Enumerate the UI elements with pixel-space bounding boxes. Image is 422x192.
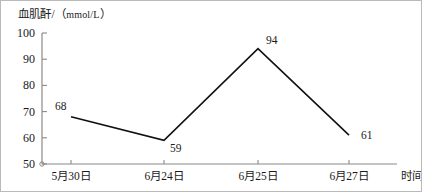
data-point-label: 94 [266, 34, 278, 46]
x-axis-title: 时间 [401, 170, 422, 183]
chart-figure: 血肌酐/（mmol/L） 1009080706050 5月30日6月24日6月2… [0, 0, 422, 192]
data-point-label: 59 [170, 142, 182, 154]
data-point-label: 61 [361, 129, 373, 141]
data-point-label: 68 [55, 100, 67, 112]
chart-plot-area [1, 1, 422, 192]
y-axis-tick-label: 100 [3, 27, 35, 39]
data-series-line [71, 49, 349, 141]
y-axis-tick-label: 80 [3, 79, 35, 91]
y-axis-tick-label: 50 [3, 158, 35, 170]
y-axis-tick-label: 90 [3, 53, 35, 65]
x-axis-tick-label: 5月30日 [51, 170, 90, 183]
y-axis-tick-label: 70 [3, 106, 35, 118]
x-axis-tick-label: 6月24日 [144, 170, 183, 183]
axes-group [42, 33, 397, 164]
x-axis-tick-label: 6月27日 [329, 170, 368, 183]
x-axis-tick-label: 6月25日 [238, 170, 277, 183]
axis-ticks-group [42, 33, 349, 164]
y-axis-tick-label: 60 [3, 132, 35, 144]
